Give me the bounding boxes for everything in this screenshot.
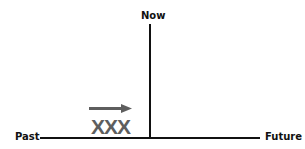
now-vertical-line: [149, 24, 151, 138]
now-label: Now: [141, 11, 165, 21]
arrow-right-icon: [89, 104, 133, 113]
future-label: Future: [265, 132, 302, 142]
past-label: Past: [15, 132, 40, 142]
marker-text: XXX: [91, 116, 130, 137]
timeline-axis: [40, 137, 260, 139]
